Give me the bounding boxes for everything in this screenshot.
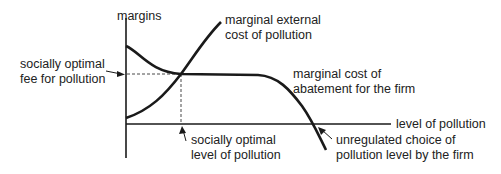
optimal-level-label-line2: level of pollution bbox=[191, 148, 281, 163]
unregulated-label-line2: pollution level by the firm bbox=[336, 148, 474, 163]
optimal-level-label-line1: socially optimal bbox=[191, 133, 276, 148]
abatement-label-line2: abatement for the firm bbox=[293, 82, 415, 97]
abatement-label-line1: marginal cost of bbox=[293, 67, 381, 82]
fee-label-line2: fee for pollution bbox=[20, 72, 105, 87]
external-cost-label-line1: marginal external bbox=[225, 13, 321, 28]
y-axis-label: margins bbox=[117, 9, 161, 24]
optimal-level-arrow-icon bbox=[179, 126, 186, 141]
fee-arrow-icon bbox=[106, 71, 125, 77]
external-cost-label-line2: cost of pollution bbox=[225, 28, 312, 43]
x-axis-label: level of pollution bbox=[396, 117, 486, 132]
marginal-external-cost-curve bbox=[126, 22, 221, 118]
pollution-diagram: margins marginal external cost of pollut… bbox=[0, 0, 501, 174]
unregulated-label-line1: unregulated choice of bbox=[336, 133, 456, 148]
fee-label-line1: socially optimal bbox=[20, 57, 105, 72]
